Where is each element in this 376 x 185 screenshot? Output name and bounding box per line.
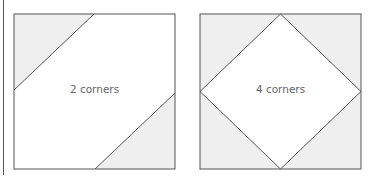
panel-4-corners: 4 corners: [200, 14, 361, 169]
panel-label: 4 corners: [256, 83, 305, 95]
panel-2-corners: 2 corners: [14, 14, 175, 169]
corners-diagram: 2 corners 4 corners: [0, 0, 376, 185]
panel-label: 2 corners: [70, 83, 119, 95]
